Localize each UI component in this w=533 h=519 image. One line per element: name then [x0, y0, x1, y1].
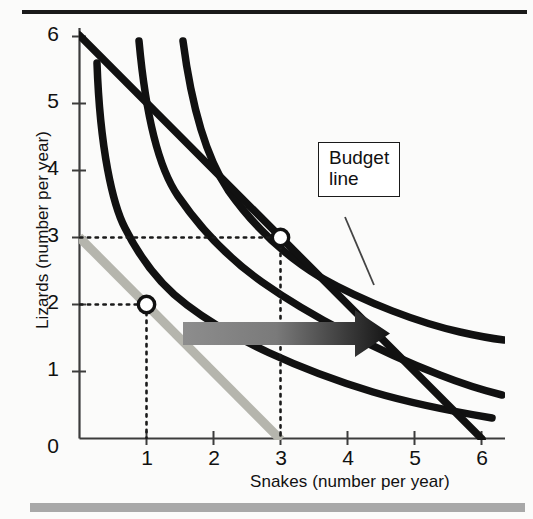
y-tick-label-6: 6: [40, 22, 66, 46]
budget-line-callout-leader: [345, 217, 374, 285]
x-tick-label-2: 2: [201, 446, 227, 470]
y-axis-title: Lizards (number per year): [33, 115, 53, 345]
x-tick-label-1: 1: [134, 446, 160, 470]
x-tick-label-5: 5: [402, 446, 428, 470]
y-tick-label-1: 1: [40, 357, 66, 381]
budget-line-callout: Budget line: [318, 142, 400, 197]
x-tick-label-6: 6: [469, 446, 495, 470]
x-tick-label-4: 4: [335, 446, 361, 470]
x-axis-title: Snakes (number per year): [250, 472, 450, 492]
x-tick-label-3: 3: [268, 446, 294, 470]
budget-shift-arrow: [183, 310, 390, 357]
equilibrium-point-new: [272, 229, 288, 245]
equilibrium-point-initial: [138, 296, 154, 312]
indifference-curve-chart: [0, 0, 533, 519]
y-tick-label-0: 0: [40, 434, 66, 458]
budget-line-callout-line2: line: [329, 168, 389, 189]
budget-line-callout-line1: Budget: [329, 147, 389, 168]
bottom-accent-bar: [30, 503, 525, 512]
y-tick-label-5: 5: [40, 89, 66, 113]
figure-container: 6 5 4 3 2 1 0 1 2 3 4 5 6 Lizards (numbe…: [0, 0, 533, 519]
